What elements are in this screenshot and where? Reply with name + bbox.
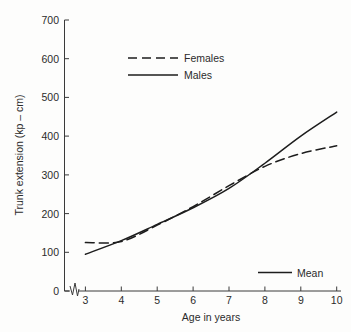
x-tick-label-8: 8 — [262, 294, 268, 306]
mean-annotation: Mean — [258, 267, 323, 279]
legend-label-females: Females — [184, 52, 224, 64]
series-line-females — [85, 146, 336, 243]
y-tick-label-300: 300 — [41, 169, 59, 181]
y-tick-label-400: 400 — [41, 130, 59, 142]
x-tick-label-9: 9 — [298, 294, 304, 306]
x-axis-title: Age in years — [182, 311, 240, 323]
y-axis-title: Trunk extension (kp – cm) — [13, 95, 25, 216]
x-tick-marks — [85, 287, 336, 292]
y-tick-label-0: 0 — [53, 285, 59, 297]
legend-label-males: Males — [184, 69, 212, 81]
y-tick-label-600: 600 — [41, 53, 59, 65]
y-tick-label-100: 100 — [41, 246, 59, 258]
x-tick-label-4: 4 — [118, 294, 124, 306]
line-chart: 700 600 500 400 300 200 100 0 3 4 5 6 7 … — [0, 0, 351, 332]
x-tick-label-3: 3 — [82, 294, 88, 306]
x-tick-label-6: 6 — [190, 294, 196, 306]
y-tick-label-500: 500 — [41, 91, 59, 103]
x-tick-label-10: 10 — [331, 294, 343, 306]
x-tick-label-7: 7 — [226, 294, 232, 306]
series-line-males — [85, 112, 336, 254]
figure-container: 700 600 500 400 300 200 100 0 3 4 5 6 7 … — [0, 0, 351, 332]
x-tick-label-5: 5 — [154, 294, 160, 306]
mean-label: Mean — [297, 267, 323, 279]
y-tick-marks — [65, 20, 70, 291]
legend: Females Males — [128, 52, 224, 81]
y-tick-label-200: 200 — [41, 208, 59, 220]
axis-break-icon — [70, 283, 79, 296]
y-tick-label-700: 700 — [41, 14, 59, 26]
